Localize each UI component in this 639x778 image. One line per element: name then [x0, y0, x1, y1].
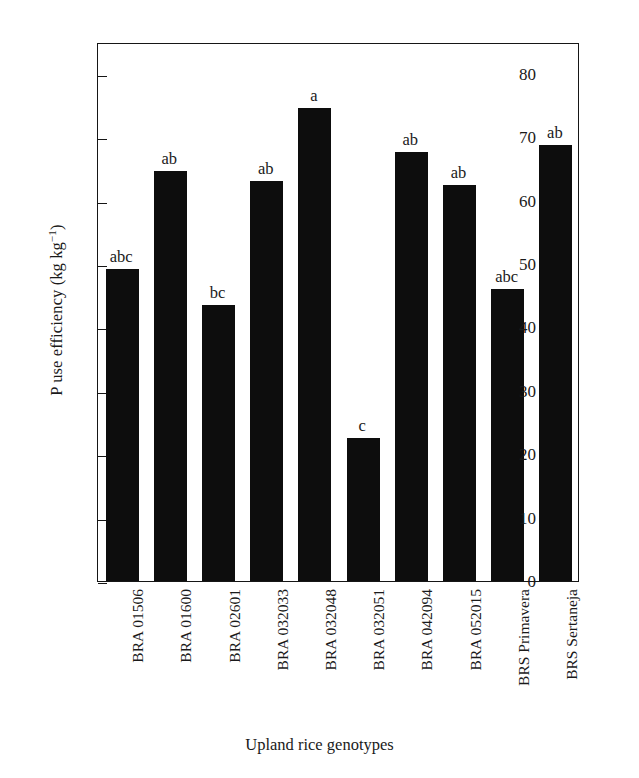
- y-axis-tick: [98, 583, 107, 584]
- bar[interactable]: [539, 145, 572, 581]
- x-axis-tick-label: BRA 01600: [177, 589, 195, 759]
- bar[interactable]: [154, 171, 187, 581]
- bar-significance-label: c: [327, 416, 397, 436]
- y-axis-tick-label: 20: [496, 445, 536, 465]
- y-axis-tick: [98, 203, 107, 204]
- bar-significance-label: abc: [86, 247, 156, 267]
- bar-significance-label: ab: [231, 159, 301, 179]
- bar-significance-label: bc: [183, 283, 253, 303]
- y-axis-title-text: P use efficiency (kg kg: [47, 242, 66, 396]
- y-axis-tick: [98, 139, 107, 140]
- x-axis-tick-label: BRS Sertaneja: [563, 589, 581, 759]
- plot-area: [97, 43, 579, 582]
- bar[interactable]: [443, 185, 476, 581]
- x-axis-tick-label: BRA 052015: [467, 589, 485, 759]
- y-axis-tick: [98, 76, 107, 77]
- x-axis-tick-label: BRA 032033: [274, 589, 292, 759]
- x-axis-tick-label: BRA 042094: [418, 589, 436, 759]
- bar-significance-label: ab: [520, 123, 590, 143]
- bar[interactable]: [395, 152, 428, 581]
- x-axis-title: Upland rice genotypes: [0, 735, 639, 755]
- x-axis-tick-label: BRA 032048: [322, 589, 340, 759]
- bar-significance-label: ab: [424, 163, 494, 183]
- bar[interactable]: [202, 305, 235, 581]
- bar[interactable]: [347, 438, 380, 581]
- y-axis-tick-label: 10: [496, 509, 536, 529]
- y-axis-tick-label: 30: [496, 382, 536, 402]
- y-axis-title-tail: ): [47, 224, 66, 230]
- bar[interactable]: [106, 269, 139, 581]
- bar-significance-label: ab: [134, 149, 204, 169]
- bar-significance-label: ab: [375, 130, 445, 150]
- y-axis-tick-label: 80: [496, 65, 536, 85]
- figure-container: P use efficiency (kg kg−1) 0102030405060…: [0, 0, 639, 778]
- y-axis-tick-label: 60: [496, 192, 536, 212]
- bar-significance-label: a: [279, 86, 349, 106]
- x-axis-tick-label: BRA 01506: [129, 589, 147, 759]
- y-axis-title: P use efficiency (kg kg−1): [47, 50, 67, 570]
- x-axis-tick-label: BRA 032051: [370, 589, 388, 759]
- bar[interactable]: [298, 108, 331, 581]
- bar[interactable]: [250, 181, 283, 581]
- y-axis-tick-label: 40: [496, 318, 536, 338]
- x-axis-tick-label: BRS Primavera: [515, 589, 533, 759]
- bar-significance-label: abc: [472, 267, 542, 287]
- x-axis-tick-label: BRA 02601: [226, 589, 244, 759]
- y-axis-title-exponent: −1: [46, 230, 58, 242]
